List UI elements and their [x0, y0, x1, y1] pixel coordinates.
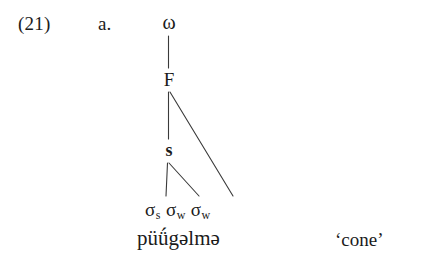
sigma-subscript: s [156, 208, 161, 222]
branch-strong-to-sigma-2 [169, 163, 199, 196]
tree-node-prosodic-word: ω [158, 12, 180, 32]
sigma-symbol: σ [145, 199, 155, 220]
prosodic-tree-figure: (21) a. ω F s σs σw σw püǘgəlmə ‘cone’ [0, 0, 435, 278]
tree-terminal-sigma-1: σs [145, 200, 160, 219]
transcription: püǘgəlmə [137, 228, 220, 249]
branch-strong-to-sigma-1 [166, 163, 168, 196]
sigma-symbol: σ [191, 199, 201, 220]
tree-terminal-sigma-3: σw [191, 200, 210, 219]
tree-node-strong: s [158, 141, 180, 159]
gloss: ‘cone’ [335, 230, 384, 249]
sigma-symbol: σ [166, 199, 176, 220]
example-number: (21) [18, 13, 50, 35]
tree-terminal-sigma-2: σw [166, 200, 185, 219]
sigma-subscript: w [202, 208, 211, 222]
example-sublabel: a. [98, 13, 111, 35]
tree-node-foot: F [158, 70, 180, 89]
tree-terminal-row: σs σw σw [145, 200, 210, 219]
sigma-subscript: w [177, 208, 186, 222]
